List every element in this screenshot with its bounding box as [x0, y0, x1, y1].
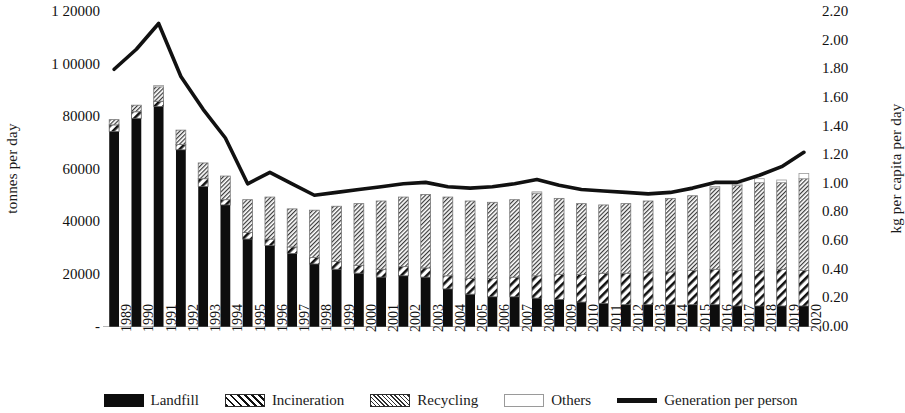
bar-stack: [710, 187, 720, 327]
bar-segment-recycling: [154, 87, 164, 101]
bar-segment-incineration: [487, 278, 497, 296]
bar-segment-incineration: [465, 278, 475, 294]
bar-segment-landfill: [131, 118, 141, 327]
y-axis-left-tick-label: 20000: [63, 267, 101, 282]
bar-segment-landfill: [443, 289, 453, 327]
incineration-swatch: [225, 394, 265, 407]
bar-segment-recycling: [599, 205, 609, 273]
bar-segment-incineration: [754, 271, 764, 306]
bar-segment-recycling: [287, 209, 297, 247]
y-axis-right-tick-label: 0.20: [822, 290, 848, 305]
bar-stack: [443, 197, 453, 327]
bar-segment-others: [754, 179, 764, 183]
bar-segment-recycling: [465, 201, 475, 278]
bar-stack: [799, 173, 809, 327]
bar-stack: [532, 192, 542, 327]
bar-segment-recycling: [554, 198, 564, 274]
bar-segment-incineration: [109, 125, 119, 132]
y-axis-right-tick-label: 0.40: [822, 262, 848, 277]
bar-stack: [421, 194, 431, 327]
bar-segment-landfill: [554, 299, 564, 327]
bar-segment-landfill: [799, 306, 809, 327]
bar-stack: [154, 86, 164, 328]
bar-stack: [176, 130, 186, 327]
legend-item[interactable]: Landfill: [104, 392, 199, 409]
bar-segment-landfill: [599, 303, 609, 327]
y-axis-right-tick-label: 1.80: [822, 61, 848, 76]
legend-item-label: Incineration: [272, 392, 344, 409]
bar-segment-incineration: [576, 275, 586, 303]
bar-segment-landfill: [309, 264, 319, 327]
legend-item-label: Recycling: [417, 392, 478, 409]
bar-segment-recycling: [131, 105, 141, 112]
bar-segment-recycling: [777, 183, 787, 270]
bar-segment-landfill: [243, 239, 253, 327]
y-axis-left-title: tonnes per day: [4, 109, 21, 229]
bar-segment-others: [710, 187, 720, 188]
bar-segment-incineration: [621, 273, 631, 305]
bar-segment-landfill: [465, 294, 475, 327]
legend-item[interactable]: Recycling: [370, 392, 478, 409]
bar-segment-incineration: [176, 145, 186, 150]
bar-stack: [599, 205, 609, 327]
y-axis-right-tick-label: 2.00: [822, 33, 848, 48]
bar-stack: [688, 196, 698, 327]
bar-stack: [309, 210, 319, 327]
legend-item[interactable]: Generation per person: [617, 392, 797, 409]
bar-segment-recycling: [265, 197, 275, 239]
bar-segment-recycling: [443, 197, 453, 276]
bar-segment-landfill: [220, 205, 230, 327]
legend-item-label: Generation per person: [664, 392, 797, 409]
bar-stack: [265, 197, 275, 327]
bar-stack: [109, 120, 119, 327]
legend-item[interactable]: Incineration: [225, 392, 344, 409]
bar-segment-recycling: [799, 179, 809, 271]
recycling-swatch: [370, 394, 410, 407]
bar-stack: [643, 201, 653, 327]
bar-segment-others: [154, 86, 164, 87]
y-axis-left-tick-label: 1 20000: [51, 4, 100, 19]
bar-segment-recycling: [576, 204, 586, 275]
others-swatch: [504, 394, 544, 407]
bar-segment-recycling: [732, 185, 742, 270]
bar-segment-recycling: [220, 176, 230, 200]
bar-stack: [554, 198, 564, 327]
bar-segment-incineration: [665, 272, 675, 305]
bar-segment-recycling: [532, 193, 542, 276]
bar-segment-landfill: [754, 306, 764, 327]
bar-segment-recycling: [354, 204, 364, 266]
bar-segment-landfill: [354, 273, 364, 327]
bar-segment-incineration: [732, 271, 742, 306]
bar-segment-recycling: [710, 188, 720, 269]
legend-item[interactable]: Others: [504, 392, 591, 409]
bar-stack: [487, 202, 497, 327]
bar-segment-recycling: [332, 206, 342, 261]
bar-stack: [510, 200, 520, 327]
bar-segment-incineration: [398, 267, 408, 276]
y-axis-right-tick-label: 1.60: [822, 90, 848, 105]
bar-segment-landfill: [710, 305, 720, 327]
bar-segment-others: [799, 173, 809, 178]
bar-segment-incineration: [376, 269, 386, 277]
bar-segment-landfill: [732, 306, 742, 327]
bar-segment-incineration: [220, 200, 230, 205]
y-axis-right-tick-label: 1.00: [822, 176, 848, 191]
bar-segment-others: [777, 180, 787, 183]
line-series-generation-per-person: [114, 23, 804, 195]
legend-item-label: Others: [551, 392, 591, 409]
bar-segment-landfill: [688, 305, 698, 327]
bar-segment-landfill: [576, 302, 586, 327]
y-axis-left-tick-label: -: [95, 319, 100, 334]
bar-segment-landfill: [332, 269, 342, 327]
bar-segment-recycling: [665, 198, 675, 272]
bar-segment-others: [532, 192, 542, 193]
bar-stack: [131, 105, 141, 327]
landfill-swatch: [104, 394, 144, 407]
bar-segment-recycling: [198, 163, 208, 179]
bar-segment-landfill: [643, 305, 653, 327]
bar-segment-recycling: [621, 204, 631, 274]
bar-segment-landfill: [287, 254, 297, 328]
bar-segment-recycling: [754, 183, 764, 271]
bar-segment-landfill: [421, 277, 431, 327]
bar-segment-incineration: [777, 269, 787, 306]
